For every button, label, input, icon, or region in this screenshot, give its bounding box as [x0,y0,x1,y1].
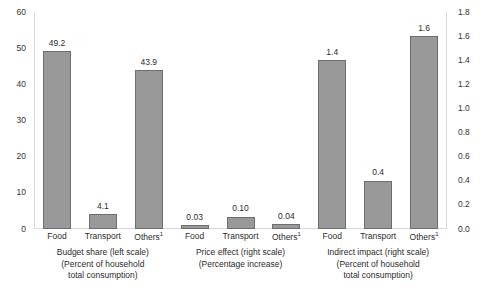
bar-value-label: 0.03 [186,213,203,222]
category-label: Transport [222,231,258,241]
bar-value-label: 1.6 [418,24,430,33]
bar [43,51,71,229]
right-axis-tick: 1.8 [458,8,470,17]
bars-layer: 49.24.143.90.030.100.041.40.41.6 [34,12,447,229]
left-axis-tick: 10 [17,188,26,197]
group-caption-line: Indirect impact (right scale) [327,247,429,259]
group-caption-line: total consumption) [327,270,429,282]
category-label: Food [323,231,342,241]
left-axis-tick: 30 [17,116,26,125]
category-axis-labels: FoodTransportOthers1FoodTransportOthers1… [34,231,447,245]
category-label: Food [185,231,204,241]
category-label: Food [47,231,66,241]
category-label: Others1 [134,231,163,242]
group-caption: Indirect impact (right scale)(Percent of… [327,247,429,282]
group-caption-line: (Percentage increase) [196,259,285,271]
group-caption-line: Budget share (left scale) [57,247,149,259]
group-caption: Price effect (right scale)(Percentage in… [196,247,285,270]
group-caption-line: (Percent of household [327,259,429,271]
bar-value-label: 0.10 [232,204,249,213]
bar-value-label: 4.1 [97,202,109,211]
right-axis-tick: 0.8 [458,128,470,137]
bar [272,224,300,229]
bar [364,181,392,229]
left-axis-tick: 50 [17,44,26,53]
right-axis-tick: 0.2 [458,200,470,209]
bar-value-label: 0.4 [372,168,384,177]
left-axis-tick: 60 [17,8,26,17]
right-axis-tick: 0.6 [458,152,470,161]
right-axis-tick: 0.0 [458,225,470,234]
group-caption-line: (Percent of household [57,259,149,271]
bar-value-label: 43.9 [140,58,157,67]
bar-value-label: 1.4 [326,48,338,57]
category-label: Transport [85,231,121,241]
group-caption-line: total consumption) [57,270,149,282]
category-label: Others1 [410,231,439,242]
bar-chart: 0102030405060 0.00.20.40.60.81.01.21.41.… [0,0,497,294]
right-axis-tick: 1.4 [458,56,470,65]
left-value-axis: 0102030405060 [0,12,30,229]
bar [227,217,255,229]
bar [318,60,346,229]
bar-value-label: 49.2 [49,39,66,48]
group-caption-line: Price effect (right scale) [196,247,285,259]
left-axis-tick: 40 [17,80,26,89]
bar [89,214,117,229]
right-value-axis: 0.00.20.40.60.81.01.21.41.61.8 [452,12,492,229]
bar [181,225,209,229]
group-captions: Budget share (left scale)(Percent of hou… [34,247,447,293]
right-axis-tick: 0.4 [458,176,470,185]
left-axis-tick: 20 [17,152,26,161]
right-axis-tick: 1.2 [458,80,470,89]
bar-value-label: 0.04 [278,212,295,221]
group-caption: Budget share (left scale)(Percent of hou… [57,247,149,282]
category-label: Others1 [272,231,301,242]
right-axis-tick: 1.0 [458,104,470,113]
bar [135,70,163,229]
right-axis-tick: 1.6 [458,32,470,41]
category-label: Transport [360,231,396,241]
bar [410,36,438,229]
left-axis-tick: 0 [21,225,26,234]
